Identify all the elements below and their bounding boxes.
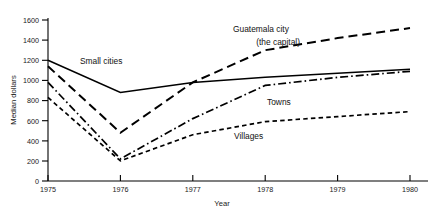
x-axis-title: Year <box>214 199 230 208</box>
series-label-guatemala-city: Guatemala city <box>233 24 290 34</box>
y-axis-ticks <box>42 20 48 181</box>
x-tick-label: 1978 <box>257 185 273 194</box>
x-axis-tick-labels: 1975 1976 1977 1978 1979 1980 <box>40 185 418 194</box>
series-label-villages: Villages <box>234 131 263 141</box>
x-tick-label: 1976 <box>112 185 128 194</box>
y-tick-label: 800 <box>27 96 39 105</box>
x-tick-label: 1979 <box>330 185 346 194</box>
series-line-villages <box>48 97 410 160</box>
y-tick-label: 1200 <box>23 56 39 65</box>
line-chart: 1600 1400 1200 1000 800 600 400 200 0 Me… <box>0 0 438 220</box>
series-label-towns: Towns <box>267 97 291 107</box>
y-tick-label: 600 <box>27 117 39 126</box>
y-tick-label: 1600 <box>23 16 39 25</box>
y-tick-label: 1000 <box>23 76 39 85</box>
series-label-guatemala-city-sub: (the capital) <box>256 37 300 47</box>
y-axis-title: Median dollars <box>9 75 18 125</box>
x-tick-label: 1980 <box>402 185 418 194</box>
y-axis-tick-labels: 1600 1400 1200 1000 800 600 400 200 0 <box>23 16 39 186</box>
y-tick-label: 200 <box>27 157 39 166</box>
chart-svg: 1600 1400 1200 1000 800 600 400 200 0 Me… <box>0 0 438 220</box>
y-tick-label: 1400 <box>23 36 39 45</box>
series-group <box>48 28 410 161</box>
series-label-small-cities: Small cities <box>80 56 122 66</box>
x-tick-label: 1975 <box>40 185 56 194</box>
x-axis-ticks <box>48 175 410 181</box>
y-tick-label: 400 <box>27 137 39 146</box>
y-tick-label: 0 <box>35 177 39 186</box>
x-tick-label: 1977 <box>185 185 201 194</box>
